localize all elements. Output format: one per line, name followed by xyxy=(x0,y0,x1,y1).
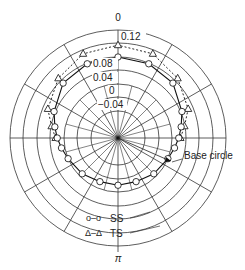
base-circle-label: Base circle xyxy=(184,150,233,161)
grid-spoke-inner xyxy=(118,124,170,138)
legend-ss-label: SS xyxy=(110,213,124,224)
ss-marker xyxy=(170,80,176,86)
ss-marker xyxy=(133,178,139,184)
grid-spoke-inner xyxy=(118,86,132,138)
base-circle-leader xyxy=(172,159,182,162)
grid-spoke-inner xyxy=(66,124,118,138)
angle-label-bottom: π xyxy=(115,253,122,264)
grid-spoke-inner xyxy=(66,138,118,152)
tick-label-0.04: 0.04 xyxy=(93,72,113,83)
ss-marker xyxy=(60,80,66,86)
grid-spoke xyxy=(118,84,212,138)
tick-label-neg0.04: −0.04 xyxy=(98,99,124,110)
ss-marker xyxy=(176,135,182,141)
ss-marker xyxy=(146,61,152,67)
grid-spoke xyxy=(24,84,118,138)
grid-spoke xyxy=(24,138,118,192)
tick-label-0: 0 xyxy=(109,85,115,96)
tick-label-0.08: 0.08 xyxy=(93,58,113,69)
ts-marker xyxy=(185,105,192,112)
ss-marker xyxy=(179,108,185,114)
ss-marker xyxy=(54,135,60,141)
ss-marker xyxy=(52,124,58,130)
ts-marker xyxy=(55,74,62,81)
ss-marker xyxy=(65,155,71,161)
angle-label-top: 0 xyxy=(115,12,121,23)
legend-ss-marker: o–o xyxy=(86,213,101,223)
ss-marker xyxy=(97,178,103,184)
polar-chart-svg: 0 π 0.12 0.08 0.04 0 −0.04 Base circle o… xyxy=(0,0,245,270)
ss-marker xyxy=(115,182,121,188)
legend-ts-label: TS xyxy=(110,228,123,239)
ts-marker xyxy=(44,105,51,112)
ss-marker xyxy=(178,124,184,130)
ss-marker xyxy=(58,145,64,151)
ss-marker xyxy=(151,171,157,177)
ss-marker xyxy=(84,61,90,67)
tick-label-0.12: 0.12 xyxy=(121,31,141,42)
legend: o–o SS Δ–Δ TS xyxy=(80,211,160,247)
base-circle-pointer xyxy=(118,138,168,160)
ss-marker xyxy=(51,108,57,114)
ss-marker xyxy=(79,171,85,177)
ss-marker xyxy=(171,145,177,151)
legend-ts-marker: Δ–Δ xyxy=(85,228,102,238)
polar-chart: 0 π 0.12 0.08 0.04 0 −0.04 Base circle o… xyxy=(0,0,245,270)
grid-spoke xyxy=(118,138,212,192)
ts-marker xyxy=(114,41,121,48)
